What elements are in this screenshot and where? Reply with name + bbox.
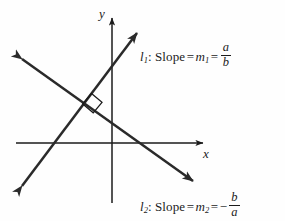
line1-word: : Slope bbox=[148, 49, 185, 64]
line1-numerator: a bbox=[221, 41, 231, 55]
line2-variable: m bbox=[196, 199, 206, 214]
line1-equals2: = bbox=[209, 49, 219, 64]
y-axis-label: y bbox=[99, 6, 105, 22]
figure-canvas: y x l1: Slope=m1=ab l2: Slope=m2=−ba bbox=[0, 0, 285, 221]
line1-equals: = bbox=[185, 49, 195, 64]
line1-slope-label: l1: Slope=m1=ab bbox=[140, 41, 232, 69]
line1-fraction: ab bbox=[220, 41, 232, 69]
line2-fraction: ba bbox=[228, 191, 240, 219]
line2-word: : Slope bbox=[148, 199, 185, 214]
right-angle-icon bbox=[83, 94, 102, 113]
line2-equals2: = bbox=[209, 199, 219, 214]
line1-variable: m bbox=[196, 49, 206, 64]
line2-minus-sign: − bbox=[220, 199, 228, 214]
line2-equals: = bbox=[185, 199, 195, 214]
line-l2 bbox=[22, 59, 193, 181]
coordinate-plane-figure bbox=[0, 0, 285, 221]
x-axis-label: x bbox=[203, 146, 209, 162]
line2-numerator: b bbox=[229, 191, 239, 205]
line1-denominator: b bbox=[221, 55, 231, 70]
line2-denominator: a bbox=[229, 205, 239, 220]
line2-slope-label: l2: Slope=m2=−ba bbox=[140, 191, 241, 219]
line-l1 bbox=[22, 33, 137, 186]
